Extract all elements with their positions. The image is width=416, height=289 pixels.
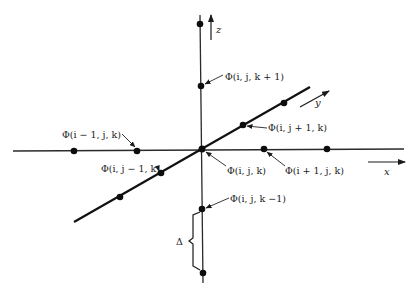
label-k-minus: Φ(i, j, k −1) bbox=[230, 193, 286, 204]
leader-center bbox=[206, 152, 226, 166]
label-j-minus: Φ(i, j − 1, k) bbox=[101, 163, 160, 174]
leader-i-plus bbox=[267, 152, 285, 166]
label-j-plus: Φ(i, j + 1, k) bbox=[268, 122, 327, 133]
leader-k-plus bbox=[205, 75, 223, 84]
label-i-minus: Φ(i − 1, j, k) bbox=[62, 129, 121, 140]
node-k-minus bbox=[199, 206, 206, 213]
node-lower-extra bbox=[117, 194, 124, 201]
label-center: Φ(i, j, k) bbox=[227, 165, 266, 176]
node-k-plus bbox=[198, 83, 205, 90]
grid-stencil-diagram: z y x Φ(i, j, k + 1) bbox=[0, 0, 416, 289]
node-bottom-extra bbox=[200, 270, 207, 277]
label-i-plus: Φ(i + 1, j, k) bbox=[285, 165, 344, 176]
leader-i-minus bbox=[122, 134, 135, 147]
z-axis-label: z bbox=[215, 24, 222, 35]
label-k-plus: Φ(i, j, k + 1) bbox=[225, 71, 284, 82]
node-right-extra bbox=[324, 146, 331, 153]
node-upper-extra bbox=[281, 100, 288, 107]
delta-brace bbox=[189, 212, 200, 270]
node-center bbox=[199, 146, 206, 153]
node-i-minus bbox=[134, 148, 141, 155]
leader-j-plus bbox=[247, 126, 267, 128]
leader-k-minus bbox=[206, 198, 229, 208]
delta-label: Δ bbox=[176, 236, 183, 247]
node-j-plus bbox=[240, 122, 247, 129]
node-top-extra bbox=[197, 21, 204, 28]
y-axis-label: y bbox=[314, 97, 321, 108]
node-i-plus bbox=[261, 146, 268, 153]
x-axis-label: x bbox=[384, 166, 390, 177]
node-left-extra bbox=[71, 148, 78, 155]
